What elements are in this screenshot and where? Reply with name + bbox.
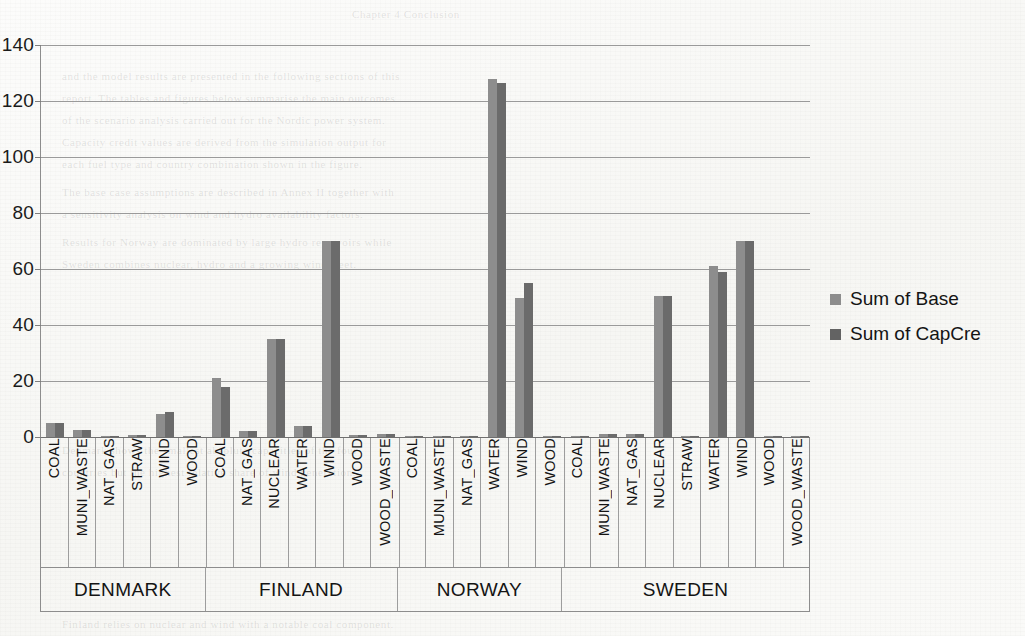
y-axis-tick-label: 100 xyxy=(2,146,34,168)
bar-sum-of-capcre[interactable] xyxy=(55,423,64,437)
category-bar-pair[interactable] xyxy=(567,45,595,437)
bar-sum-of-base[interactable] xyxy=(46,423,55,437)
bar-sum-of-capcre[interactable] xyxy=(663,296,672,437)
bar-sum-of-capcre[interactable] xyxy=(303,426,312,437)
legend-item[interactable]: Sum of CapCre xyxy=(830,323,981,345)
x-axis-category-labels: COALMUNI_WASTENAT_GASSTRAWWINDWOODCOALNA… xyxy=(40,437,810,568)
category-bar-pair[interactable] xyxy=(262,45,290,437)
bar-sum-of-base[interactable] xyxy=(212,378,221,437)
category-bar-pair[interactable] xyxy=(96,45,124,437)
bar-sum-of-base[interactable] xyxy=(654,296,663,437)
x-axis-category-cell: NAT_GAS xyxy=(234,438,262,567)
category-bar-pair[interactable] xyxy=(456,45,484,437)
x-axis-category-cell: WOOD xyxy=(179,438,207,567)
category-bar-pair[interactable] xyxy=(787,45,815,437)
country-category-cells: COALMUNI_WASTENAT_GASNUCLEARSTRAWWATERWI… xyxy=(564,438,812,567)
x-axis-category-label: WOOD xyxy=(542,438,558,490)
category-bar-pair[interactable] xyxy=(649,45,677,437)
bar-sum-of-base[interactable] xyxy=(267,339,276,437)
bar-sum-of-base[interactable] xyxy=(488,79,497,437)
x-axis-category-cell: MUNI_WASTE xyxy=(69,438,97,567)
x-axis-category-cell: WOOD_WASTE xyxy=(784,438,812,567)
category-bar-pair[interactable] xyxy=(179,45,207,437)
y-axis-tick-label: 120 xyxy=(2,90,34,112)
x-axis-category-cell: STRAW xyxy=(124,438,152,567)
bar-sum-of-base[interactable] xyxy=(709,266,718,437)
category-bar-pair[interactable] xyxy=(704,45,732,437)
x-axis-country-labels: DENMARKFINLANDNORWAYSWEDEN xyxy=(40,568,810,612)
category-bar-pair[interactable] xyxy=(483,45,511,437)
bar-sum-of-base[interactable] xyxy=(294,426,303,437)
x-axis-category-label: COAL xyxy=(212,438,228,482)
x-axis-category-label: WOOD xyxy=(184,438,200,490)
x-axis-category-label: COAL xyxy=(404,438,420,482)
y-axis-tick-label: 40 xyxy=(12,314,34,336)
bar-sum-of-base[interactable] xyxy=(156,414,165,437)
bar-sum-of-capcre[interactable] xyxy=(221,387,230,437)
x-axis-category-label: WOOD_WASTE xyxy=(789,438,805,550)
category-bar-pair[interactable] xyxy=(622,45,650,437)
category-bar-pair[interactable] xyxy=(732,45,760,437)
category-bar-pair[interactable] xyxy=(151,45,179,437)
y-axis-tick-label: 140 xyxy=(2,34,34,56)
x-axis-category-cell: WIND xyxy=(316,438,344,567)
x-axis-category-label: MUNI_WASTE xyxy=(596,438,612,540)
category-bar-pair[interactable] xyxy=(207,45,235,437)
x-axis-category-label: NAT_GAS xyxy=(239,438,255,510)
category-bar-pair[interactable] xyxy=(538,45,566,437)
category-bar-pair[interactable] xyxy=(41,45,69,437)
x-axis-country-label: DENMARK xyxy=(41,568,206,611)
category-bar-pair[interactable] xyxy=(759,45,787,437)
x-axis-category-cell: WATER xyxy=(289,438,317,567)
bar-sum-of-base[interactable] xyxy=(515,298,524,437)
background-text-line: Finland relies on nuclear and wind with … xyxy=(62,618,394,630)
legend-label: Sum of CapCre xyxy=(850,323,981,345)
x-axis-category-cell: WIND xyxy=(509,438,537,567)
category-bar-pair[interactable] xyxy=(69,45,97,437)
bar-sum-of-base[interactable] xyxy=(322,241,331,437)
country-category-cells: COALMUNI_WASTENAT_GASSTRAWWINDWOOD xyxy=(41,438,206,567)
bar-sum-of-base[interactable] xyxy=(736,241,745,437)
x-axis-category-cell: WIND xyxy=(151,438,179,567)
bar-sum-of-capcre[interactable] xyxy=(745,241,754,437)
bar-sum-of-capcre[interactable] xyxy=(524,283,533,437)
bar-sum-of-capcre[interactable] xyxy=(718,272,727,437)
y-axis-tick-label: 80 xyxy=(12,202,34,224)
x-axis-category-cell: COAL xyxy=(399,438,427,567)
category-bar-pair[interactable] xyxy=(594,45,622,437)
x-axis-category-label: COAL xyxy=(46,438,62,482)
category-bar-pair[interactable] xyxy=(401,45,429,437)
category-bar-pair[interactable] xyxy=(677,45,705,437)
bar-sum-of-capcre[interactable] xyxy=(165,412,174,437)
category-bar-pair[interactable] xyxy=(511,45,539,437)
country-bar-group xyxy=(401,45,567,437)
legend-item[interactable]: Sum of Base xyxy=(830,288,981,310)
category-bar-pair[interactable] xyxy=(235,45,263,437)
x-axis-category-label: NAT_GAS xyxy=(101,438,117,510)
y-axis: 020406080100120140 xyxy=(0,45,34,437)
category-bar-pair[interactable] xyxy=(345,45,373,437)
category-bar-pair[interactable] xyxy=(372,45,400,437)
category-bar-pair[interactable] xyxy=(124,45,152,437)
y-axis-tick-label: 20 xyxy=(12,370,34,392)
bar-sum-of-capcre[interactable] xyxy=(276,339,285,437)
x-axis-category-label: WIND xyxy=(321,438,337,481)
x-axis-country-label: NORWAY xyxy=(398,568,563,611)
bar-sum-of-capcre[interactable] xyxy=(331,241,340,437)
category-bar-pair[interactable] xyxy=(428,45,456,437)
x-axis-country-label: FINLAND xyxy=(206,568,398,611)
x-axis-category-cell: STRAW xyxy=(674,438,702,567)
bar-chart: Chapter 4 Conclusion and the model resul… xyxy=(0,0,1025,636)
x-axis-category-cell: MUNI_WASTE xyxy=(426,438,454,567)
category-bar-pair[interactable] xyxy=(290,45,318,437)
x-axis-category-label: WOOD_WASTE xyxy=(377,438,393,550)
x-axis-category-cell: WATER xyxy=(701,438,729,567)
x-axis-category-cell: COAL xyxy=(564,438,592,567)
bar-sum-of-capcre[interactable] xyxy=(82,430,91,437)
x-axis-category-cell: WIND xyxy=(729,438,757,567)
category-bar-pair[interactable] xyxy=(317,45,345,437)
x-axis-category-label: MUNI_WASTE xyxy=(431,438,447,540)
x-axis-category-label: WIND xyxy=(734,438,750,481)
bar-sum-of-capcre[interactable] xyxy=(497,83,506,437)
bar-sum-of-base[interactable] xyxy=(73,430,82,437)
